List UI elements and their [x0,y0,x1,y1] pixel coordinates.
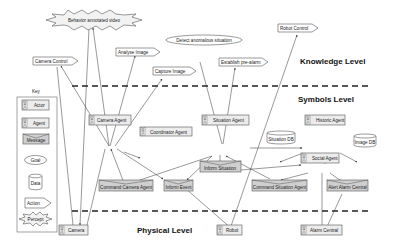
goal-detect-anomalous-situation[interactable]: Detect anomalous situation [166,35,242,45]
svg-text:Camera Control: Camera Control [35,59,67,64]
svg-text:Action: Action [27,201,40,206]
action-capture-image[interactable]: Capture Image [153,67,196,75]
svg-text:Message: Message [27,138,46,143]
svg-text:Detect anomalous situation: Detect anomalous situation [176,38,232,43]
actor-robot[interactable]: Robot [217,225,242,235]
svg-text:Situation DB: Situation DB [268,137,294,142]
key-goal: Goal [25,156,47,165]
svg-text:Analyse Image: Analyse Image [118,50,149,55]
percept-behavior-annotated-video[interactable]: Behavior annotated video [46,10,142,30]
svg-text:Establish pre-alarm: Establish pre-alarm [221,60,261,65]
agent-coordinator-agent[interactable]: Coordinator Agent [140,127,192,136]
data-situation-db[interactable]: Situation DB [267,131,295,144]
svg-text:Actor: Actor [34,103,45,108]
agent-historic-agent[interactable]: Historic Agent [305,115,345,125]
message-command-situation-agent[interactable]: Command Situation Agent [252,180,307,191]
key-legend: Key Actor Agent Message Goal Da [17,89,57,232]
svg-text:Goal: Goal [31,158,41,163]
svg-text:Inform Situation: Inform Situation [204,166,237,171]
svg-text:Historic Agent: Historic Agent [316,118,345,123]
svg-text:Percept: Percept [28,217,45,222]
key-data: Data [29,174,42,190]
action-camera-control[interactable]: Camera Control [33,57,78,65]
svg-text:Alarm Central: Alarm Central [310,228,338,233]
svg-text:Agent: Agent [33,121,46,126]
agent-social-agent[interactable]: Social Agent [301,153,339,163]
svg-text:Camera: Camera [68,228,85,233]
multi-agent-architecture-diagram: Knowledge Level Symbols Level Physical L… [0,0,394,249]
svg-text:Command Situation Agent: Command Situation Agent [253,185,307,190]
physical-level-label: Physical Level [137,226,192,235]
svg-text:Coordinator Agent: Coordinator Agent [150,130,188,135]
svg-text:Social Agent: Social Agent [312,156,338,161]
message-inform-situation[interactable]: Inform Situation [200,161,241,172]
svg-text:Inform Event: Inform Event [165,185,192,190]
actor-alarm-central[interactable]: Alarm Central [301,225,342,235]
svg-text:Alert Alarm Central: Alert Alarm Central [328,185,367,190]
action-analyse-image[interactable]: Analyse Image [116,48,160,56]
knowledge-level-label: Knowledge Level [300,57,365,66]
key-agent: Agent [22,118,49,128]
symbols-level-label: Symbols Level [298,95,354,104]
svg-text:Robot: Robot [226,228,239,233]
agent-camera-agent[interactable]: Camera Agent [89,115,131,125]
actor-camera[interactable]: Camera [59,225,88,235]
key-title: Key [32,89,41,94]
key-actor: Actor [22,100,49,110]
svg-text:Robot Control: Robot Control [280,26,308,31]
message-alert-alarm-central[interactable]: Alert Alarm Central [327,180,368,191]
svg-text:Data: Data [31,181,41,186]
action-establish-pre-alarm[interactable]: Establish pre-alarm [219,58,268,66]
data-image-db[interactable]: Image DB [354,134,376,147]
message-inform-event[interactable]: Inform Event [164,180,193,191]
svg-text:Image DB: Image DB [355,140,375,145]
agent-situation-agent[interactable]: Situation Agent [202,115,249,125]
key-percept: Percept [19,212,52,226]
svg-text:Command Camera Agent: Command Camera Agent [100,185,153,190]
message-command-camera-agent[interactable]: Command Camera Agent [99,180,153,191]
svg-text:Capture Image: Capture Image [155,69,186,74]
svg-text:Camera Agent: Camera Agent [97,118,127,123]
svg-text:Situation Agent: Situation Agent [213,118,245,123]
svg-text:Behavior annotated video: Behavior annotated video [68,18,121,23]
action-robot-control[interactable]: Robot Control [278,24,318,32]
key-message: Message [23,134,49,144]
